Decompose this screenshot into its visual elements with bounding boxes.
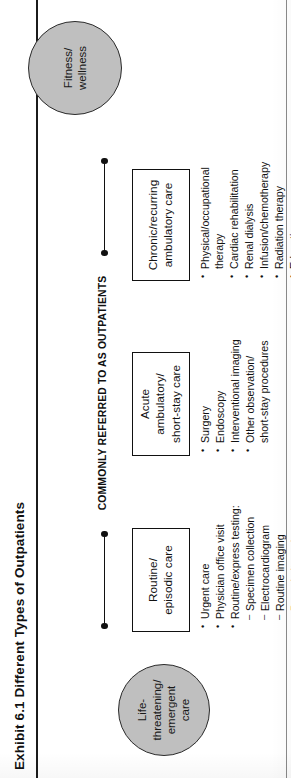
category-box-chronic: Chronic/recurringambulatory care [132,169,190,281]
exhibit-canvas: Exhibit 6.1 Different Types of Outpatien… [0,0,291,778]
bullet-item: Interventional imaging [228,282,242,452]
bullet-item: Physician office visit [213,458,227,628]
span-caption: COMMONLY REFERRED TO AS OUTPATIENTS [97,264,108,522]
sub-bullet-item: Electrocardiogram [258,458,272,628]
bullet-item: Infusion/chemotherapy [257,102,271,278]
title-divider [36,0,38,778]
bullet-item: Endoscopy [213,282,227,452]
span-bracket-left [104,532,105,628]
bullet-item: Routine/express testing: [228,458,242,628]
bullet-item: Renal dialysis [242,102,256,278]
circle-right-label: Fitness/wellness [61,46,90,90]
category-heading: Routine/episodic care [146,545,177,615]
sub-bullet-item: Specimen collection [243,458,257,628]
sub-bullet-item: Routine imaging [273,458,287,628]
bullet-item: Radiation therapy [272,102,286,278]
bullet-item: Other observation/short-stay procedures [243,282,271,452]
category-box-routine: Routine/episodic care [132,528,190,632]
bullet-list-acute: SurgeryEndoscopyInterventional imagingOt… [198,282,272,452]
exhibit-page: Exhibit 6.1 Different Types of Outpatien… [0,0,291,778]
category-heading: Acute ambulatory/short-stay care [138,357,184,451]
bullet-item: Urgent care [198,458,212,628]
bullet-item: Cardiac rehabilitation [227,102,241,278]
bullet-item: Physical/occupationaltherapy [198,102,226,278]
circle-life-threatening: Life-threatening/emergentcare [118,664,210,756]
bullet-list-routine: Urgent carePhysician office visitRoutine… [198,458,291,628]
exhibit-title: Exhibit 6.1 Different Types of Outpatien… [12,502,27,770]
span-bracket-right [104,159,105,255]
circle-left-label: Life-threatening/emergentcare [135,680,193,741]
circle-fitness-wellness: Fitness/wellness [28,21,122,115]
bullet-item: Surgery [198,282,212,452]
sub-bullet-item: Pre-admit services [288,458,291,628]
category-heading: Chronic/recurringambulatory care [146,180,177,270]
bullet-list-chronic: Physical/occupationaltherapyCardiac reha… [198,102,291,278]
bullet-item: Education [287,102,291,278]
category-box-acute: Acute ambulatory/short-stay care [132,352,190,456]
